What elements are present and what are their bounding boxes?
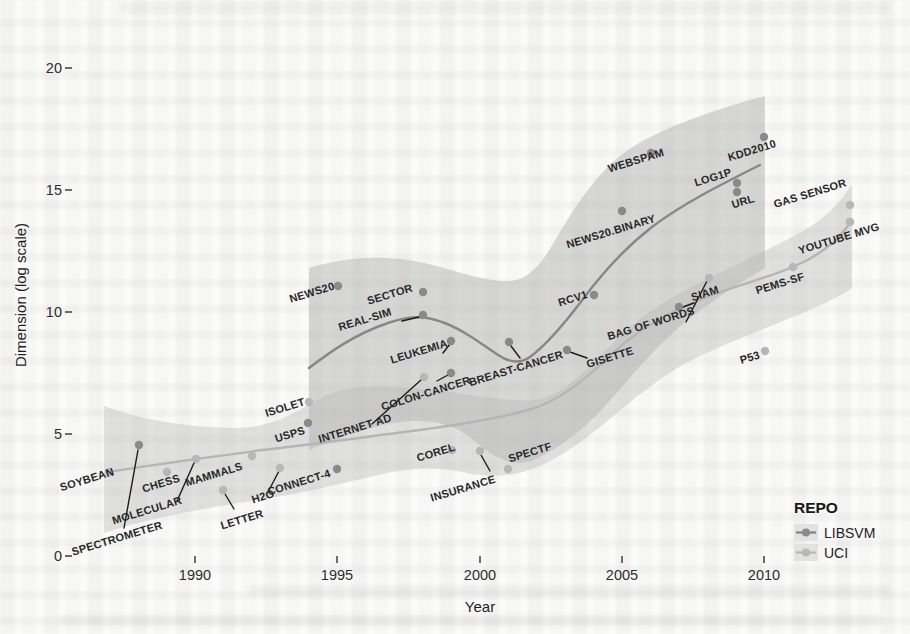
point-gas-sensor [846, 201, 854, 209]
scanned-page: SOYBEAN SPECTROMETER CHESS MOLECULAR LET… [0, 0, 910, 634]
legend-point-libsvm-icon [802, 529, 810, 537]
point-log1p [733, 179, 741, 187]
point-molecular [192, 455, 200, 463]
legend-label-libsvm: LIBSVM [824, 525, 875, 541]
x-axis: 1990 1995 2000 2005 2010 Year [179, 556, 780, 615]
x-tick-label: 2005 [606, 567, 638, 583]
point-colon-cancer [447, 369, 455, 377]
y-tick-label: 5 [54, 426, 62, 442]
y-tick-label: 0 [54, 548, 62, 564]
x-tick-label: 2000 [464, 567, 496, 583]
point-internet-ad [420, 373, 428, 381]
point-label-insurance: INSURANCE [429, 473, 497, 504]
legend-point-uci-icon [802, 549, 810, 557]
point-label-p53: P53 [738, 348, 761, 365]
point-real-sim [419, 311, 427, 319]
point-youtube-mvg [846, 218, 854, 226]
y-tick-label: 20 [46, 60, 62, 76]
point-letter [219, 486, 227, 494]
point-label-letter: LETTER [219, 507, 265, 531]
point-usps [304, 419, 312, 427]
point-h2o [276, 464, 284, 472]
point-bag-of-words [705, 274, 713, 282]
point-gisette [563, 346, 571, 354]
point-rcv1 [590, 291, 598, 299]
legend-label-uci: UCI [824, 545, 848, 561]
y-tick-label: 15 [46, 182, 62, 198]
point-news20-binary [618, 207, 626, 215]
point-connect-4 [333, 465, 341, 473]
x-tick-label: 2010 [748, 567, 780, 583]
point-p53 [761, 347, 769, 355]
dimension-vs-year-chart: SOYBEAN SPECTROMETER CHESS MOLECULAR LET… [0, 0, 910, 634]
point-leukemia [447, 337, 455, 345]
point-pems-sf [789, 263, 797, 271]
x-tick-label: 1995 [321, 567, 353, 583]
point-mammals [248, 452, 256, 460]
point-breast-cancer [505, 338, 513, 346]
legend-title: REPO [794, 499, 838, 516]
x-axis-title: Year [465, 598, 495, 615]
point-insurance [476, 447, 484, 455]
y-axis-title: Dimension (log scale) [12, 223, 29, 367]
x-tick-label: 1990 [179, 567, 211, 583]
point-isolet [305, 398, 313, 406]
y-tick-label: 10 [46, 304, 62, 320]
point-spectrometer [135, 441, 143, 449]
point-spectf [504, 465, 512, 473]
legend: REPO LIBSVM UCI [794, 499, 875, 561]
point-sector [419, 288, 427, 296]
